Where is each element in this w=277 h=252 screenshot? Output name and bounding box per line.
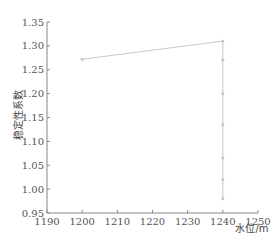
data-point-marker xyxy=(221,123,224,126)
x-tick-label: 1210 xyxy=(105,216,130,227)
data-point-marker xyxy=(221,59,224,62)
chart-canvas: 0.951.001.051.101.151.201.251.301.351190… xyxy=(0,0,277,252)
data-point-marker xyxy=(81,58,84,61)
y-tick-label: 1.10 xyxy=(22,136,44,147)
y-tick-label: 1.15 xyxy=(22,112,44,123)
y-tick-label: 1.05 xyxy=(22,160,44,171)
x-tick-label: 1220 xyxy=(140,216,165,227)
data-series xyxy=(81,40,225,201)
data-point-marker xyxy=(221,178,224,181)
series-line xyxy=(82,41,223,199)
data-point-marker xyxy=(221,156,224,159)
x-tick-label: 1200 xyxy=(69,216,94,227)
data-point-marker xyxy=(221,197,224,200)
y-tick-label: 1.00 xyxy=(22,184,44,195)
y-axis-title: 稳定性系数 xyxy=(12,90,24,140)
x-tick-label: 1190 xyxy=(34,216,59,227)
y-tick-label: 1.35 xyxy=(22,17,44,28)
x-axis-title: 水位/m xyxy=(235,222,268,234)
data-point-marker xyxy=(221,40,224,43)
y-tick-label: 1.25 xyxy=(22,64,44,75)
y-tick-label: 1.30 xyxy=(22,40,44,51)
x-tick-label: 1230 xyxy=(175,216,200,227)
axes: 0.951.001.051.101.151.201.251.301.351190… xyxy=(22,17,271,228)
data-point-marker xyxy=(221,92,224,95)
x-tick-label: 1240 xyxy=(210,216,235,227)
y-tick-label: 1.20 xyxy=(22,88,44,99)
